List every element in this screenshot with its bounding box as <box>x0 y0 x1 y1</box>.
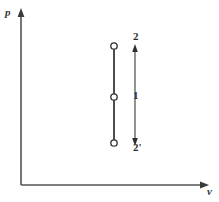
diagram-canvas <box>0 0 219 202</box>
pressure-axis-label: p <box>5 7 11 18</box>
state-label-1: 1 <box>133 90 139 101</box>
state-point-2 <box>111 43 117 49</box>
process-line-group <box>111 43 117 146</box>
state-label-2-prime: 2' <box>133 142 142 153</box>
state-label-2: 2 <box>133 31 139 42</box>
direction-arrowhead-up <box>132 44 138 52</box>
pv-diagram-figure: p v 2 1 2' <box>0 0 219 202</box>
state-point-1 <box>111 94 117 100</box>
state-point-2-prime <box>111 140 117 146</box>
pressure-axis-arrowhead <box>18 8 25 17</box>
volume-axis-label: v <box>207 186 212 197</box>
